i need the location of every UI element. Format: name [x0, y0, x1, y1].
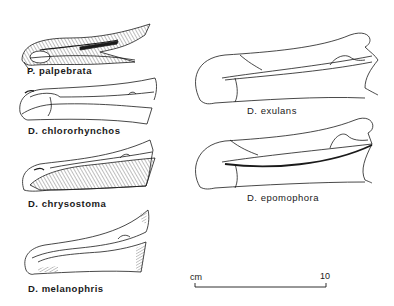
bill-chlororhynchos — [20, 78, 157, 124]
scale-end-label: 10 — [320, 272, 330, 281]
bill-drawings — [0, 0, 394, 306]
bill-epomophora — [196, 118, 373, 189]
label-palpebrata: P. palpebrata — [27, 66, 92, 76]
bill-melanophris — [25, 210, 149, 274]
scale-bar — [195, 283, 326, 287]
bill-exulans — [196, 33, 378, 104]
label-melanophris: D. melanophris — [28, 284, 104, 294]
bill-palpebrata — [22, 24, 150, 70]
label-chlororhynchos: D. chlororhynchos — [28, 126, 120, 136]
bill-chrysostoma — [23, 140, 155, 191]
bill-comparison-figure: P. palpebrata D. chlororhynchos D. chrys… — [0, 0, 394, 306]
label-exulans: D. exulans — [247, 106, 297, 116]
label-epomophora: D. epomophora — [247, 193, 319, 203]
scale-unit-label: cm — [190, 273, 202, 282]
label-chrysostoma: D. chrysostoma — [28, 199, 106, 209]
